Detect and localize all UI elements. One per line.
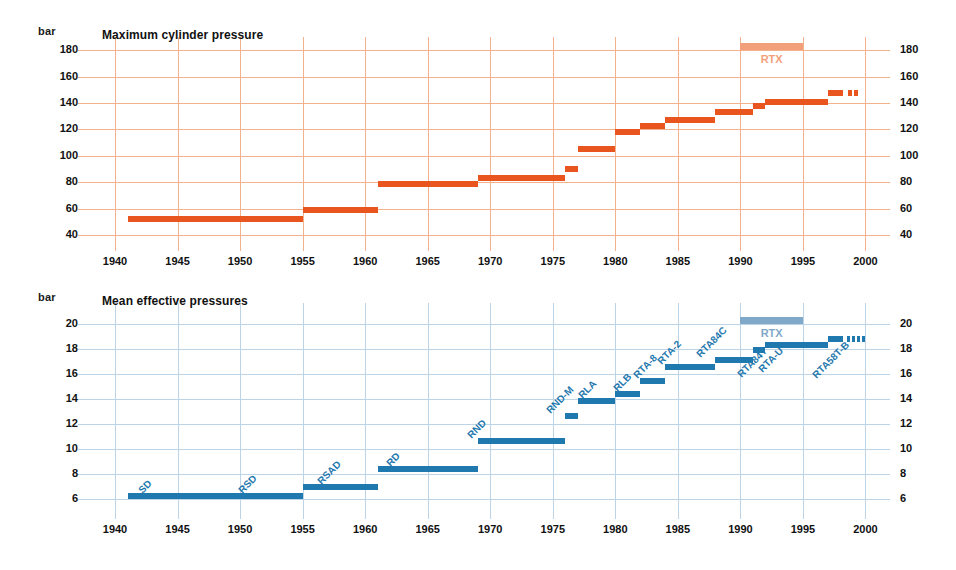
gridline-vertical bbox=[615, 37, 616, 251]
gridline-vertical bbox=[865, 303, 866, 519]
x-axis-tick-label: 1945 bbox=[152, 523, 204, 535]
gridline-vertical bbox=[615, 303, 616, 519]
y-axis-tick-label-right: 180 bbox=[900, 43, 940, 55]
y-axis-tick-label-right: 80 bbox=[900, 175, 940, 187]
x-axis-tick-label: 1980 bbox=[589, 523, 641, 535]
x-axis-tick-label: 1940 bbox=[89, 255, 141, 267]
y-axis-tick-label-left: 40 bbox=[38, 228, 78, 240]
x-axis-tick-label: 1970 bbox=[464, 255, 516, 267]
y-axis-tick-label-left: 120 bbox=[38, 122, 78, 134]
data-bar bbox=[615, 129, 640, 135]
x-axis-tick-label: 1970 bbox=[464, 523, 516, 535]
gridline-horizontal bbox=[78, 324, 890, 325]
gridline-horizontal bbox=[78, 474, 890, 475]
x-axis-tick-label: 1995 bbox=[777, 523, 829, 535]
data-bar bbox=[478, 175, 566, 181]
data-bar bbox=[665, 364, 715, 370]
gridline-vertical bbox=[490, 303, 491, 519]
y-axis-tick-label-right: 12 bbox=[900, 417, 940, 429]
y-axis-tick-label-right: 100 bbox=[900, 149, 940, 161]
y-axis-tick-label-right: 20 bbox=[900, 317, 940, 329]
y-axis-tick-label-left: 10 bbox=[38, 442, 78, 454]
trend-dash bbox=[857, 336, 860, 342]
gridline-vertical bbox=[678, 303, 679, 519]
y-axis-tick-label-left: 160 bbox=[38, 70, 78, 82]
x-axis-tick-label: 1975 bbox=[527, 255, 579, 267]
data-bar bbox=[765, 99, 828, 105]
data-bar bbox=[378, 181, 478, 187]
y-axis-tick-label-left: 100 bbox=[38, 149, 78, 161]
y-axis-tick-label-left: 60 bbox=[38, 202, 78, 214]
data-bar bbox=[128, 216, 303, 222]
x-axis-tick-label: 1990 bbox=[714, 523, 766, 535]
y-axis-tick-label-right: 18 bbox=[900, 342, 940, 354]
chart-maximum-cylinder-pressure: 4040606080801001001201201401401601601801… bbox=[0, 0, 956, 285]
y-axis-tick-label-right: 60 bbox=[900, 202, 940, 214]
gridline-horizontal bbox=[78, 77, 890, 78]
gridline-horizontal bbox=[78, 399, 890, 400]
panel-title: Maximum cylinder pressure bbox=[102, 28, 263, 42]
engine-series-label: RSAD bbox=[315, 459, 343, 487]
trend-dash bbox=[854, 90, 858, 96]
x-axis-tick-label: 1990 bbox=[714, 255, 766, 267]
trend-dash bbox=[852, 336, 855, 342]
trend-dash bbox=[862, 336, 865, 342]
y-axis-tick-label-right: 140 bbox=[900, 96, 940, 108]
gridline-horizontal bbox=[78, 209, 890, 210]
x-axis-tick-label: 1955 bbox=[277, 255, 329, 267]
y-axis-unit-label: bar bbox=[38, 291, 56, 303]
y-axis-tick-label-right: 120 bbox=[900, 122, 940, 134]
y-axis-tick-label-right: 16 bbox=[900, 367, 940, 379]
y-axis-tick-label-right: 8 bbox=[900, 467, 940, 479]
chart-mean-effective-pressures: 6688101012121414161618182020194019451950… bbox=[0, 285, 956, 570]
engine-series-label: RTA-2 bbox=[655, 339, 683, 367]
data-bar bbox=[303, 207, 378, 213]
gridline-vertical bbox=[740, 37, 741, 251]
y-axis-tick-label-right: 40 bbox=[900, 228, 940, 240]
rtx-band bbox=[740, 43, 803, 50]
x-axis-tick-label: 1950 bbox=[214, 255, 266, 267]
x-axis-tick-label: 1945 bbox=[152, 255, 204, 267]
x-axis-tick-label: 1965 bbox=[402, 255, 454, 267]
gridline-horizontal bbox=[78, 156, 890, 157]
y-axis-tick-label-left: 180 bbox=[38, 43, 78, 55]
gridline-vertical bbox=[803, 303, 804, 519]
gridline-vertical bbox=[428, 303, 429, 519]
y-axis-tick-label-left: 6 bbox=[38, 492, 78, 504]
x-axis-tick-label: 2000 bbox=[839, 523, 891, 535]
x-axis-tick-label: 1975 bbox=[527, 523, 579, 535]
rtx-band bbox=[740, 317, 803, 324]
data-bar bbox=[128, 493, 303, 499]
x-axis-tick-label: 2000 bbox=[839, 255, 891, 267]
data-bar bbox=[565, 413, 578, 419]
gridline-horizontal bbox=[78, 499, 890, 500]
gridline-vertical bbox=[865, 37, 866, 251]
x-axis-tick-label: 1985 bbox=[652, 523, 704, 535]
gridline-horizontal bbox=[78, 182, 890, 183]
gridline-horizontal bbox=[78, 129, 890, 130]
gridline-vertical bbox=[303, 37, 304, 251]
x-axis-tick-label: 1985 bbox=[652, 255, 704, 267]
x-axis-tick-label: 1995 bbox=[777, 255, 829, 267]
trend-dash bbox=[848, 90, 852, 96]
gridline-vertical bbox=[115, 303, 116, 519]
y-axis-tick-label-left: 80 bbox=[38, 175, 78, 187]
y-axis-tick-label-right: 6 bbox=[900, 492, 940, 504]
data-bar bbox=[753, 103, 766, 109]
gridline-vertical bbox=[428, 37, 429, 251]
y-axis-tick-label-left: 16 bbox=[38, 367, 78, 379]
engine-series-label: RND bbox=[465, 417, 488, 440]
engine-series-label: RTA84C bbox=[694, 324, 729, 359]
rtx-label: RTX bbox=[740, 53, 803, 65]
panel-title: Mean effective pressures bbox=[102, 294, 248, 308]
gridline-vertical bbox=[365, 37, 366, 251]
y-axis-tick-label-left: 14 bbox=[38, 392, 78, 404]
x-axis-tick-label: 1960 bbox=[339, 523, 391, 535]
gridline-horizontal bbox=[78, 349, 890, 350]
y-axis-tick-label-left: 18 bbox=[38, 342, 78, 354]
x-axis-tick-label: 1955 bbox=[277, 523, 329, 535]
data-bar bbox=[303, 484, 378, 490]
y-axis-unit-label: bar bbox=[38, 25, 56, 37]
gridline-vertical bbox=[178, 303, 179, 519]
y-axis-tick-label-right: 160 bbox=[900, 70, 940, 82]
